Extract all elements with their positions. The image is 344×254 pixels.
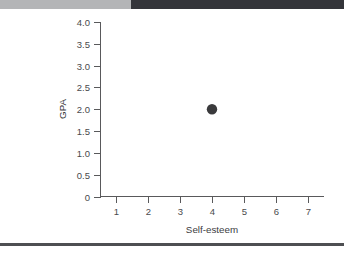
bottom-divider (0, 243, 344, 246)
y-tick-label: 4.0 (77, 17, 90, 28)
x-axis-ticks: 1234567 (114, 197, 311, 218)
scatter-chart-figure: 00.51.01.52.02.53.03.54.0 1234567 GPA Se… (0, 9, 344, 243)
y-tick-label: 3.5 (77, 39, 90, 50)
x-tick-label: 1 (114, 206, 119, 217)
y-axis-title: GPA (57, 99, 68, 119)
x-tick-label: 5 (242, 206, 247, 217)
banner-title (131, 0, 344, 3)
top-banner (0, 0, 344, 9)
y-axis-ticks: 00.51.01.52.02.53.03.54.0 (77, 17, 101, 203)
y-tick-label: 3.0 (77, 61, 90, 72)
x-tick-label: 3 (178, 206, 183, 217)
x-tick-label: 4 (210, 206, 215, 217)
y-tick-label: 2.5 (77, 82, 90, 93)
y-tick-label: 1.5 (77, 126, 90, 137)
y-tick-label: 0.5 (77, 170, 90, 181)
plot-svg: 00.51.01.52.02.53.03.54.0 1234567 GPA Se… (0, 9, 344, 243)
data-point (207, 104, 217, 114)
y-tick-label: 0 (85, 192, 90, 203)
x-axis-title: Self-esteem (186, 224, 238, 235)
y-tick-label: 1.0 (77, 148, 90, 159)
y-tick-label: 2.0 (77, 104, 90, 115)
x-tick-label: 2 (146, 206, 151, 217)
x-tick-label: 6 (274, 206, 279, 217)
data-points (207, 104, 217, 114)
banner-left-block (0, 0, 131, 9)
x-tick-label: 7 (306, 206, 311, 217)
